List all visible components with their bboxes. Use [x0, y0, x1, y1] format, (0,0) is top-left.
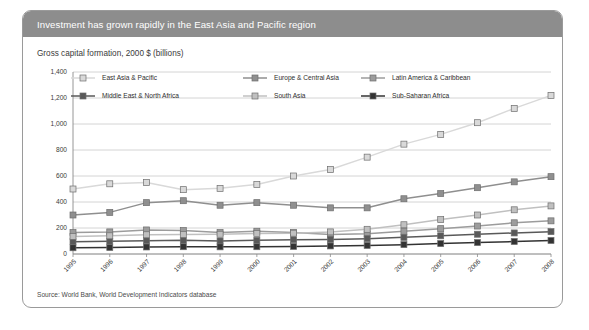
y-axis-tick-label: 200	[56, 224, 67, 231]
legend-item[interactable]: Latin America & Caribbean	[361, 74, 471, 81]
legend-item[interactable]: Europe & Central Asia	[243, 74, 339, 82]
data-point-marker	[474, 240, 480, 246]
data-point-marker	[144, 200, 150, 206]
y-axis-tick-label: 400	[56, 198, 67, 205]
data-point-marker	[364, 236, 370, 242]
data-point-marker	[438, 131, 444, 137]
data-point-marker	[217, 185, 223, 191]
data-point-marker	[401, 228, 407, 234]
legend-item[interactable]: South Asia	[243, 92, 306, 99]
data-point-marker	[327, 205, 333, 211]
data-point-marker	[438, 233, 444, 239]
series-line	[73, 95, 551, 189]
chart-card: Investment has grown rapidly in the East…	[22, 10, 563, 308]
data-point-marker	[548, 218, 554, 224]
data-point-marker	[70, 233, 76, 239]
x-axis-tick-label: 2002	[319, 258, 335, 274]
data-point-marker	[70, 212, 76, 218]
data-point-marker	[291, 243, 297, 249]
legend-label: South Asia	[274, 92, 306, 99]
legend-swatch	[252, 93, 258, 99]
data-point-marker	[364, 154, 370, 160]
series-europe-central-asia	[70, 174, 554, 218]
x-axis-tick-label: 2000	[246, 258, 262, 274]
data-point-marker	[474, 231, 480, 237]
data-point-marker	[291, 173, 297, 179]
chart-subtitle: Gross capital formation, 2000 $ (billion…	[23, 37, 562, 58]
data-point-marker	[107, 245, 113, 251]
data-point-marker	[254, 200, 260, 206]
data-point-marker	[217, 231, 223, 237]
data-point-marker	[180, 232, 186, 238]
data-point-marker	[327, 243, 333, 249]
x-axis-tick-label: 2008	[540, 258, 556, 274]
data-point-marker	[474, 120, 480, 126]
data-point-marker	[180, 244, 186, 250]
y-axis-tick-label: 1,200	[50, 94, 67, 101]
data-point-marker	[327, 167, 333, 173]
data-point-marker	[254, 230, 260, 236]
data-point-marker	[401, 196, 407, 202]
data-point-marker	[548, 174, 554, 180]
data-point-marker	[511, 179, 517, 185]
data-point-marker	[548, 237, 554, 243]
data-point-marker	[144, 238, 150, 244]
y-axis-tick-label: 600	[56, 172, 67, 179]
x-axis-tick-label: 2003	[356, 258, 372, 274]
data-point-marker	[291, 237, 297, 243]
data-point-marker	[107, 209, 113, 215]
data-point-marker	[144, 244, 150, 250]
data-point-marker	[70, 186, 76, 192]
data-point-marker	[474, 223, 480, 229]
x-axis-tick-label: 2004	[393, 258, 409, 274]
data-point-marker	[107, 238, 113, 244]
data-point-marker	[401, 222, 407, 228]
data-point-marker	[511, 105, 517, 111]
legend-label: Middle East & North Africa	[102, 92, 179, 99]
data-point-marker	[548, 203, 554, 209]
data-point-marker	[548, 229, 554, 235]
y-axis-tick-label: 1,400	[50, 68, 67, 75]
data-point-marker	[327, 229, 333, 235]
legend-swatch	[370, 75, 376, 81]
x-axis-tick-label: 2005	[430, 258, 446, 274]
data-point-marker	[107, 181, 113, 187]
legend-item[interactable]: East Asia & Pacific	[71, 74, 158, 81]
y-axis-tick-label: 800	[56, 146, 67, 153]
data-point-marker	[511, 230, 517, 236]
data-point-marker	[217, 244, 223, 250]
legend-item[interactable]: Sub-Saharan Africa	[361, 92, 450, 99]
data-point-marker	[291, 202, 297, 208]
data-point-marker	[144, 180, 150, 186]
data-point-marker	[217, 202, 223, 208]
x-axis-tick-label: 1996	[99, 258, 115, 274]
series-east-asia-pacific	[70, 92, 554, 192]
data-point-marker	[180, 198, 186, 204]
data-point-marker	[401, 141, 407, 147]
data-point-marker	[217, 238, 223, 244]
data-point-marker	[474, 212, 480, 218]
x-axis-tick-label: 1995	[62, 258, 78, 274]
data-point-marker	[548, 92, 554, 98]
x-axis-tick-label: 1999	[209, 258, 225, 274]
chart-title-bar: Investment has grown rapidly in the East…	[23, 11, 562, 37]
page-title: Investment has grown rapidly in the East…	[23, 19, 316, 30]
data-point-marker	[364, 242, 370, 248]
legend-label: East Asia & Pacific	[102, 74, 158, 81]
legend-label: Sub-Saharan Africa	[392, 92, 450, 99]
data-point-marker	[291, 230, 297, 236]
legend-swatch	[80, 75, 86, 81]
legend-swatch	[80, 93, 86, 99]
data-point-marker	[327, 236, 333, 242]
data-point-marker	[107, 233, 113, 239]
data-point-marker	[144, 232, 150, 238]
data-point-marker	[401, 234, 407, 240]
x-axis-tick-label: 2006	[466, 258, 482, 274]
line-chart: 02004006008001,0001,2001,400199519961997…	[23, 64, 563, 289]
data-point-marker	[511, 239, 517, 245]
x-axis-tick-label: 1998	[172, 258, 188, 274]
legend-label: Europe & Central Asia	[274, 74, 339, 82]
data-point-marker	[438, 226, 444, 232]
data-point-marker	[364, 226, 370, 232]
chart-source-note: Source: World Bank, World Development In…	[37, 291, 216, 298]
